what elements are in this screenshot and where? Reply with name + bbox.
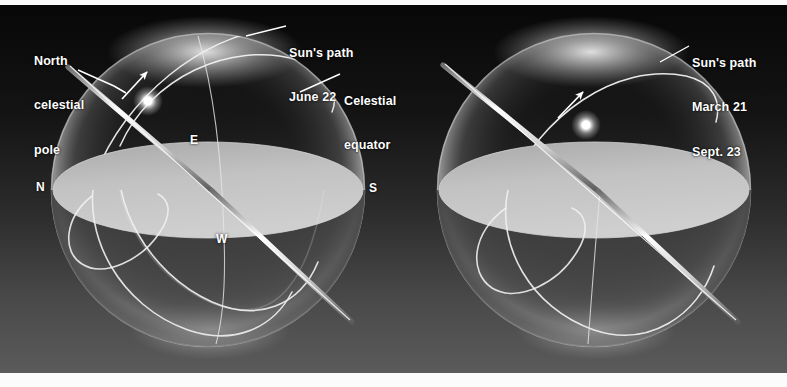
sun-core (582, 121, 591, 130)
top-white-strip (0, 0, 787, 5)
sphere-top-highlight (107, 16, 303, 88)
bottom-white-strip (0, 373, 787, 387)
sphere-top-highlight (493, 16, 689, 88)
diagram-canvas (0, 0, 787, 387)
celestial-sphere-figure: North celestial pole Sun's path June 22 … (0, 0, 787, 387)
sun-core (144, 97, 153, 106)
